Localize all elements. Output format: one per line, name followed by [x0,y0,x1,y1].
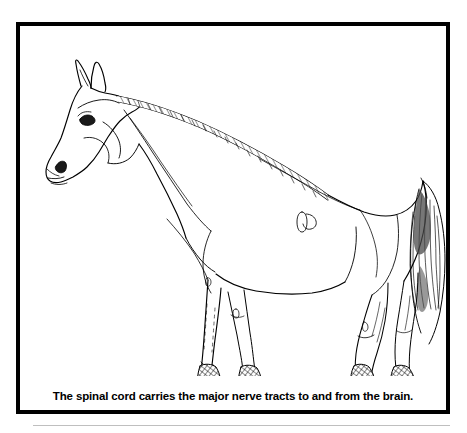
nostril [55,161,66,173]
gaskin-shading [372,296,410,342]
belly-line [216,274,345,294]
horse-outline-group [46,60,445,376]
hindquarter-inner [372,215,399,295]
ear-left-inner [80,70,88,86]
foreleg-off-chestnut [233,309,239,318]
shoulder-muscle [167,219,208,280]
page-surface: The spinal cord carries the major nerve … [0,0,467,433]
foreleg-off-front [228,292,243,376]
page-divider-rule [33,425,450,426]
hindleg-off-front [395,281,404,376]
hindleg-near-hock [358,335,374,338]
mane-crest-top [117,96,328,195]
ear-right [91,62,106,92]
hindleg-near-back [371,283,388,376]
neck-muscle-line-2 [130,118,192,206]
throat-latch [108,144,139,164]
horse-line-drawing-svg [20,26,446,376]
neck-muscle-line [124,110,211,231]
foreleg-off-hoof [239,365,262,376]
mane-texture-fill [117,96,328,200]
chin-line [51,183,67,185]
ear-left [76,60,91,88]
foreleg-near-back [211,288,221,376]
brow-line [78,100,119,108]
figure-frame: The spinal cord carries the major nerve … [16,22,450,414]
eye [80,115,95,125]
hindleg-off-hoof [391,365,414,376]
horse-illustration [20,26,446,376]
mane-crest-bottom [119,102,328,200]
stifle-bump [303,214,316,229]
hindleg-near-hoof [351,364,374,376]
chest-line [186,238,215,272]
flank-line [345,227,356,282]
neck-front-line [139,144,186,238]
shoulder-line [203,231,211,293]
foreleg-near-front [201,280,208,376]
hindleg-off-back [409,273,418,376]
figure-caption: The spinal cord carries the major nerve … [20,390,446,402]
mouth-line [48,177,64,179]
spine-back-line [328,181,423,216]
foreleg-near-hoof [198,364,221,376]
buttock-line [360,210,377,277]
sheath-marker [297,212,307,232]
hindleg-off-hock [397,330,412,333]
mane-hair-ticks [128,98,316,197]
foreleg-off-back [244,290,255,376]
